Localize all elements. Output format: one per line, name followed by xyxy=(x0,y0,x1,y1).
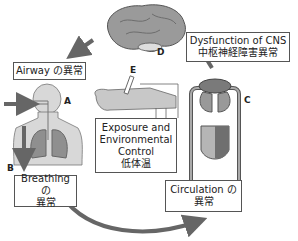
label-b: B xyxy=(7,163,14,173)
cns-box: Dysfunction of CNS 中枢神経障害異常 xyxy=(186,32,290,62)
label-a: A xyxy=(64,96,71,106)
airway-box: Airway の異常 xyxy=(13,62,86,80)
circulation-box: Circulation の 異常 xyxy=(165,180,242,212)
breathing-line1: Breathing の xyxy=(15,173,76,197)
exposure-line2: Environmental xyxy=(96,134,176,146)
breathing-line2: 異常 xyxy=(15,197,76,209)
cns-label-ja: 中枢神経障害異常 xyxy=(187,47,289,59)
abcde-diagram: Airway の異常 Dysfunction of CNS 中枢神経障害異常 E… xyxy=(0,0,298,241)
arm-thermometer-icon xyxy=(95,76,178,120)
exposure-line1: Exposure and xyxy=(96,122,176,134)
label-c: C xyxy=(244,95,251,105)
circulation-line1: Circulation の xyxy=(166,184,241,196)
cns-label-en: Dysfunction of CNS xyxy=(187,35,289,47)
circulation-line2: 異常 xyxy=(166,196,241,208)
label-e: E xyxy=(130,65,136,75)
label-d: D xyxy=(157,47,164,57)
airway-label: Airway の異常 xyxy=(14,65,85,77)
exposure-box: Exposure and Environmental Control 低体温 xyxy=(95,118,177,173)
exposure-line4: 低体温 xyxy=(96,158,176,170)
exposure-line3: Control xyxy=(96,146,176,158)
brain-icon xyxy=(107,5,185,52)
breathing-box: Breathing の 異常 xyxy=(14,175,77,207)
